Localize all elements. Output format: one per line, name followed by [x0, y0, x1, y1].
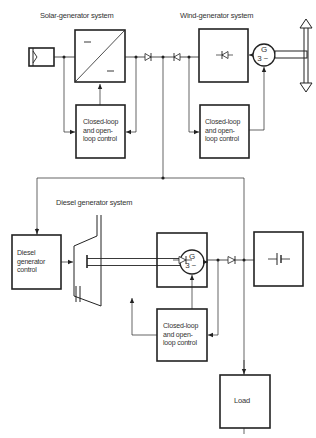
label-line: Closed-loop: [83, 118, 118, 127]
solar-section-title: Solar-generator system: [40, 11, 114, 20]
generator-letter: G: [259, 45, 269, 54]
wind-generator-label: G 3 ~: [259, 45, 269, 63]
wind-control-label: Closed-loop and open- loop control: [205, 118, 240, 144]
diode-icon: [228, 256, 235, 264]
battery-icon: [254, 232, 303, 286]
wind-section-title: Wind-generator system: [180, 11, 253, 20]
battery-control-label: Closed-loop and open- loop control: [163, 322, 198, 348]
diesel-dc-side: [0, 0, 316, 438]
generator-phase: 3 ~: [184, 261, 197, 270]
label-line: Closed-loop: [163, 322, 198, 331]
label-line: Closed-loop: [205, 118, 240, 127]
diesel-generator-label: G 3 ~: [187, 252, 197, 270]
rectifier-icon: [157, 233, 207, 287]
label-line: and open-: [83, 127, 118, 136]
label-line: generator: [17, 258, 45, 267]
diesel-section-title: Diesel generator system: [56, 198, 132, 207]
label-line: and open-: [163, 331, 198, 340]
diesel-control-label: Diesel generator control: [17, 249, 45, 275]
generator-letter: G: [187, 252, 197, 261]
label-line: loop control: [205, 135, 240, 144]
label-line: loop control: [163, 339, 198, 348]
label-line: loop control: [83, 135, 118, 144]
label-line: Diesel: [17, 249, 45, 258]
solar-control-label: Closed-loop and open- loop control: [83, 118, 118, 144]
label-line: and open-: [205, 127, 240, 136]
label-line: control: [17, 266, 45, 275]
load-label: Load: [234, 397, 250, 406]
generator-phase: 3 ~: [256, 54, 269, 63]
